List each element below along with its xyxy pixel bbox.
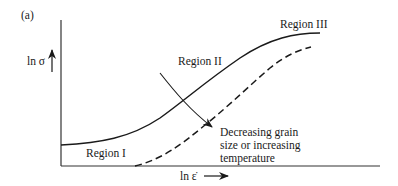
region-3-label: Region III	[280, 18, 328, 31]
shift-annotation: Decreasing grain size or increasing temp…	[220, 126, 330, 165]
annotation-line-2: size or increasing	[220, 139, 330, 152]
region-1-label: Region I	[86, 147, 126, 160]
diagram-canvas	[0, 0, 398, 186]
shift-arrow-icon	[160, 73, 212, 127]
annotation-line-3: temperature	[220, 152, 330, 165]
region-2-label: Region II	[178, 55, 222, 68]
sigmoidal-flow-stress-diagram: (a) ln σ ln ε̇ Region I Region II Region…	[0, 0, 398, 186]
y-axis-label: ln σ	[27, 55, 45, 68]
annotation-line-1: Decreasing grain	[220, 126, 330, 139]
panel-label: (a)	[21, 9, 34, 22]
x-axis-label: ln ε̇	[180, 170, 197, 183]
